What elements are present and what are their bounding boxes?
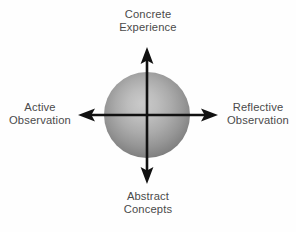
- label-active-observation: Active Observation: [2, 101, 78, 128]
- label-reflective-observation-line2: Observation: [220, 114, 296, 127]
- label-abstract-concepts-line2: Concepts: [0, 203, 296, 216]
- label-concrete-experience: Concrete Experience: [0, 8, 296, 35]
- label-abstract-concepts: Abstract Concepts: [0, 190, 296, 217]
- diagram-canvas: Concrete Experience Abstract Concepts Ac…: [0, 0, 296, 232]
- label-concrete-experience-line1: Concrete: [0, 8, 296, 21]
- label-active-observation-line1: Active: [2, 101, 78, 114]
- label-reflective-observation: Reflective Observation: [220, 101, 296, 128]
- label-active-observation-line2: Observation: [2, 114, 78, 127]
- label-reflective-observation-line1: Reflective: [220, 101, 296, 114]
- label-abstract-concepts-line1: Abstract: [0, 190, 296, 203]
- label-concrete-experience-line2: Experience: [0, 21, 296, 34]
